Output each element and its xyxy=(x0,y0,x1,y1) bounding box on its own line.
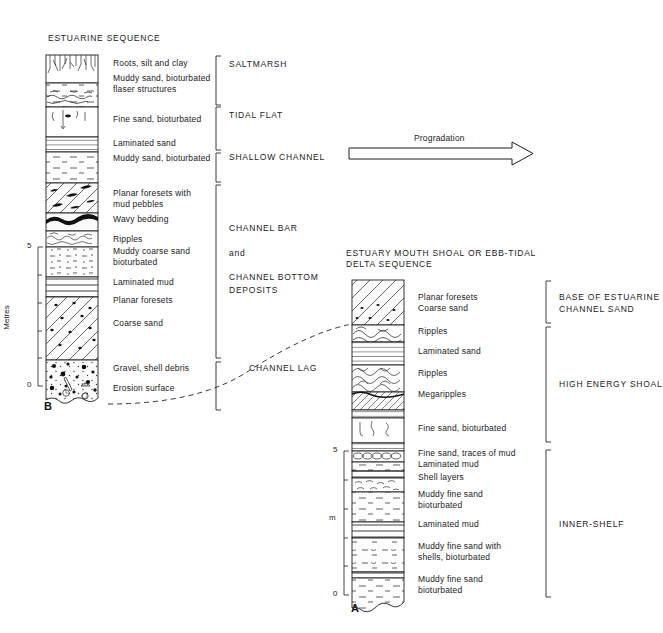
unit-label: Muddy fine sand bioturbated xyxy=(418,574,483,596)
axis-tick-label: 5 xyxy=(333,445,337,454)
channel-lag-label: CHANNEL LAG xyxy=(249,362,317,374)
unit-label: Wavy bedding xyxy=(113,214,169,225)
unit-label: Muddy coarse sand bioturbated xyxy=(113,246,190,268)
unit-label: Coarse sand xyxy=(113,318,163,329)
column-b-group-brackets xyxy=(216,56,221,410)
unit-label: Muddy sand, bioturbated xyxy=(113,153,210,164)
column-a-group-brackets xyxy=(546,281,551,597)
column-a-scale xyxy=(344,451,349,595)
column-a-identifier: A xyxy=(351,602,359,614)
unit-label: Erosion surface xyxy=(113,383,175,394)
group-label: TIDAL FLAT xyxy=(229,109,283,121)
group-label: CHANNEL BAR and CHANNEL BOTTOM DEPOSITS xyxy=(229,222,319,296)
unit-label: Laminated sand xyxy=(113,138,176,149)
unit-label: Roots, silt and clay xyxy=(113,58,188,69)
unit-label: Fine sand, bioturbated xyxy=(418,423,506,434)
group-label: INNER-SHELF xyxy=(559,518,624,530)
axis-tick-label: 5 xyxy=(27,241,31,250)
group-label: HIGH ENERGY SHOAL xyxy=(559,378,663,390)
axis-tick-label: 0 xyxy=(27,380,31,389)
unit-label: Muddy sand, bioturbated flaser structure… xyxy=(113,73,210,95)
axis-title-metres-short: m xyxy=(329,513,336,522)
unit-label: Muddy fine sand bioturbated xyxy=(418,489,483,511)
group-label: BASE OF ESTUARINE CHANNEL SAND xyxy=(559,291,660,316)
unit-label: Ripples xyxy=(418,368,448,379)
unit-label: Shell layers xyxy=(418,472,464,483)
group-label: SALTMARSH xyxy=(229,58,287,70)
unit-label: Megaripples xyxy=(418,389,466,400)
unit-label: Fine sand, traces of mud xyxy=(418,448,516,459)
unit-label: Planar foresets xyxy=(113,295,173,306)
unit-label: Planar foresets with mud pebbles xyxy=(113,188,191,210)
axis-title-metres: Metres xyxy=(2,305,11,329)
column-b-lithology xyxy=(46,55,98,403)
unit-label: Ripples xyxy=(418,326,448,337)
unit-label: Laminated sand xyxy=(418,346,481,357)
unit-label: Planar foresets Coarse sand xyxy=(418,292,478,314)
column-a-lithology xyxy=(352,280,404,612)
unit-label: Laminated mud xyxy=(113,277,174,288)
unit-label: Gravel, shell debris xyxy=(113,363,189,374)
unit-label: Ripples xyxy=(113,234,143,245)
column-b-identifier: B xyxy=(44,400,52,412)
unit-label: Laminated mud xyxy=(418,519,479,530)
column-b-scale xyxy=(38,247,43,386)
group-label: SHALLOW CHANNEL xyxy=(229,151,325,163)
unit-label: Laminated mud xyxy=(418,459,479,470)
axis-tick-label: 0 xyxy=(333,589,337,598)
unit-label: Muddy fine sand with shells, bioturbated xyxy=(418,541,501,563)
unit-label: Fine sand, bioturbated xyxy=(113,114,201,125)
